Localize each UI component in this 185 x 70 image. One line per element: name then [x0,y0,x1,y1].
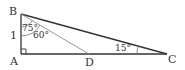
angle-label-abd: 60° [33,30,49,40]
angle-arc-acb [137,46,138,54]
right-angle-marker [21,49,26,54]
side-label-ab: 1 [10,29,17,42]
vertex-label-b: B [9,5,17,18]
vertex-label-d: D [85,56,94,69]
vertex-label-c: C [168,53,176,66]
triangle-diagram: B A D C 1 75° 60° 15° [0,0,185,70]
angle-label-acb: 15° [115,43,131,53]
vertex-label-a: A [9,55,19,68]
